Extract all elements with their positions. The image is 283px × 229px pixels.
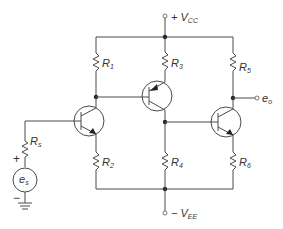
ground-icon	[18, 203, 32, 209]
svg-text:es: es	[19, 173, 29, 186]
output-terminal: eo	[233, 92, 272, 105]
svg-text:− VEE: − VEE	[171, 207, 197, 220]
schematic-svg: + VCC R1 Rs + es −	[0, 0, 283, 229]
svg-text:eo: eo	[262, 92, 272, 105]
resistor-r6: R6	[230, 152, 251, 189]
transistor-q2-pnp	[138, 81, 172, 122]
svg-text:+: +	[13, 152, 20, 166]
svg-text:R1: R1	[102, 57, 114, 70]
transistor-q1-npn	[60, 97, 104, 152]
svg-text:+ VCC: + VCC	[171, 11, 199, 24]
svg-text:R2: R2	[102, 156, 114, 169]
circuit-diagram: + VCC R1 Rs + es −	[0, 0, 283, 229]
svg-text:R5: R5	[239, 61, 251, 74]
svg-text:R4: R4	[171, 156, 183, 169]
resistor-r2: R2	[93, 152, 114, 189]
resistor-r1: R1	[93, 37, 114, 97]
svg-text:R6: R6	[239, 156, 251, 169]
svg-text:R3: R3	[171, 57, 183, 70]
resistor-r3: R3	[162, 37, 183, 82]
resistor-r4: R4	[162, 122, 183, 189]
vcc-terminal: + VCC	[163, 11, 199, 37]
resistor-r5: R5	[230, 37, 251, 98]
svg-text:Rs: Rs	[30, 135, 42, 148]
vee-terminal: − VEE	[163, 189, 197, 220]
transistor-q3-npn	[205, 98, 241, 152]
